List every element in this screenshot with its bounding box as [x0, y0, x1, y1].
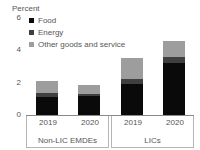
legend-swatch-energy — [29, 30, 34, 35]
legend-label-energy: Energy — [38, 29, 63, 37]
y-axis-unit-label: Percent — [12, 4, 40, 13]
x-axis: 2019 2020 Non-LIC EMDEs 2019 2020 LICs — [26, 116, 194, 148]
x-axis-group-lics: 2019 2020 LICs — [111, 116, 194, 148]
x-tick-lics-2020: 2020 — [166, 119, 184, 127]
y-tick-0: 0 — [17, 111, 21, 119]
legend-swatch-other — [29, 42, 34, 47]
bar-stack — [121, 58, 143, 115]
legend-item-food: Food — [29, 15, 125, 26]
y-tick-2: 2 — [17, 79, 21, 87]
bar-stack — [163, 41, 185, 115]
x-tick-nonlic-2019: 2019 — [39, 119, 57, 127]
bar-segment-other — [121, 58, 143, 78]
y-tick-6: 6 — [17, 14, 21, 22]
bar-stack — [36, 81, 58, 115]
bar-segment-food — [163, 63, 185, 115]
y-tick-4: 4 — [17, 46, 21, 54]
x-axis-group-nonlic: 2019 2020 Non-LIC EMDEs — [26, 116, 109, 148]
x-tick-nonlic-2020: 2020 — [81, 119, 99, 127]
x-tick-lics-2019: 2019 — [124, 119, 142, 127]
bar-segment-food — [121, 84, 143, 115]
y-axis: 6 4 2 0 — [0, 18, 26, 115]
bar-segment-other — [78, 85, 100, 94]
legend: Food Energy Other goods and service — [29, 15, 125, 51]
bar-segment-food — [78, 96, 100, 115]
bar-segment-other — [163, 41, 185, 57]
bar-segment-other — [36, 81, 58, 93]
legend-item-other: Other goods and service — [29, 39, 125, 50]
legend-label-food: Food — [38, 17, 56, 25]
bar-segment-food — [36, 97, 58, 115]
legend-swatch-food — [29, 18, 34, 23]
legend-item-energy: Energy — [29, 27, 125, 38]
chart-container: Percent 6 4 2 0 — [0, 0, 200, 150]
x-axis-group-label-lics: LICs — [112, 137, 193, 145]
legend-label-other: Other goods and service — [38, 41, 125, 49]
x-axis-group-label-nonlic: Non-LIC EMDEs — [27, 137, 108, 145]
bar-stack — [78, 85, 100, 115]
